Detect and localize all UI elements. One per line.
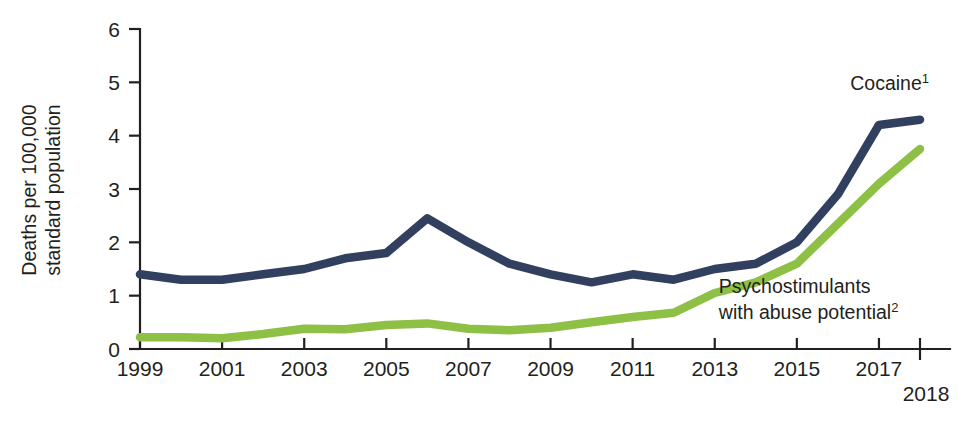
line-chart-canvas: Deaths per 100,000 standard population 0… (0, 0, 980, 422)
series-label-psychostimulants-footnote: 2 (891, 300, 898, 315)
x-tick-label: 2009 (527, 357, 574, 380)
x-tick-label: 2003 (281, 357, 328, 380)
series-label-psychostimulants-line2: with abuse potential (718, 301, 891, 323)
svg-text:with abuse potential2: with abuse potential2 (718, 300, 899, 324)
series-label-psychostimulants: Psychostimulants with abuse potential2 (718, 275, 899, 323)
y-tick-label: 3 (108, 178, 120, 201)
x-tick-label: 2007 (445, 357, 492, 380)
series-label-cocaine: Cocaine1 (850, 71, 929, 95)
series-label-cocaine-footnote: 1 (922, 71, 929, 86)
y-tick-label: 4 (108, 124, 120, 147)
x-tick-label-final: 2018 (903, 382, 950, 405)
x-tick-label: 2001 (199, 357, 246, 380)
series-label-cocaine-text: Cocaine (850, 72, 922, 94)
x-tick-label: 2011 (610, 357, 655, 380)
x-tick-label: 2015 (773, 357, 820, 380)
x-tick-label: 2017 (856, 357, 903, 380)
svg-text:Cocaine1: Cocaine1 (850, 71, 929, 95)
x-tick-label: 1999 (117, 357, 164, 380)
y-axis-ticks: 0123456 (108, 18, 140, 361)
chart-figure: Deaths per 100,000 standard population 0… (0, 0, 980, 422)
x-tick-label: 2013 (691, 357, 738, 380)
series-label-psychostimulants-line1: Psychostimulants (719, 275, 871, 297)
y-tick-label: 6 (108, 18, 120, 41)
y-axis-title-line1: Deaths per 100,000 (18, 104, 40, 275)
y-tick-label: 1 (108, 284, 120, 307)
x-tick-label: 2005 (363, 357, 410, 380)
y-tick-label: 2 (108, 231, 120, 254)
y-axis-title-line2: standard population (42, 104, 64, 275)
y-tick-label: 5 (108, 71, 120, 94)
y-axis-title: Deaths per 100,000 standard population (18, 104, 64, 275)
